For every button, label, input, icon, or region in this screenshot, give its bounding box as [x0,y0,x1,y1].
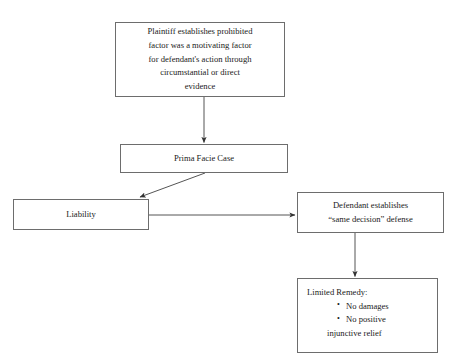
diagram-title-text: MIXED MOTIVE CASE ANALYSIS [0,0,457,3]
node-liability-label: Liability [66,208,96,222]
node-limited-remedy-continuation: injunctive relief [307,327,430,340]
list-item: No damages [337,300,430,313]
node-liability: Liability [13,199,149,230]
edge-prima-facie-to-liability [140,173,205,197]
node-prohibited-factor-label: Plaintiff establishes prohibited factor … [148,25,253,95]
node-limited-remedy-bullet-list: No damages No positive [307,300,430,327]
node-prima-facie-label: Prima Facie Case [174,152,234,166]
node-limited-remedy-heading: Limited Remedy: [307,286,430,299]
node-limited-remedy: Limited Remedy: No damages No positive i… [297,278,438,353]
flowchart-canvas: MIXED MOTIVE CASE ANALYSIS Plaintiff est… [0,0,457,363]
node-limited-remedy-body: Limited Remedy: No damages No positive i… [307,286,430,340]
node-same-decision-label: Defendant establishes “same decision” de… [328,199,412,227]
node-prima-facie: Prima Facie Case [120,144,288,173]
node-same-decision: Defendant establishes “same decision” de… [297,192,444,233]
diagram-title-clipped: MIXED MOTIVE CASE ANALYSIS [0,0,457,7]
node-prohibited-factor: Plaintiff establishes prohibited factor … [115,22,285,97]
list-item: No positive [337,313,430,326]
